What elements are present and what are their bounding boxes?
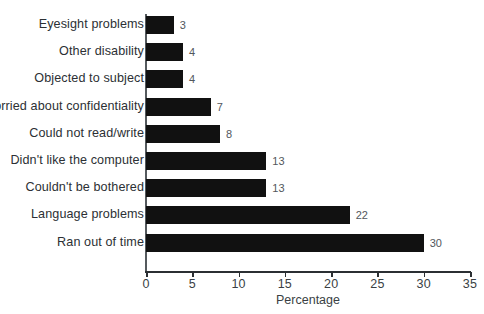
x-axis-tick-label: 15 [265,277,305,291]
x-axis-tick-label: 0 [126,277,166,291]
bar-row: Other disability4 [0,43,484,61]
bar-row: Ran out of time30 [0,234,484,252]
category-label: Eyesight problems [0,15,144,34]
bar-value-label: 13 [272,180,284,197]
bar [146,152,266,170]
bar-value-label: 3 [180,17,186,34]
bar-row: Didn't like the computer13 [0,152,484,170]
x-axis-tick-label: 30 [404,277,444,291]
bar-row: Couldn't be bothered13 [0,179,484,197]
bar-value-label: 22 [356,207,368,224]
category-label: Other disability [0,42,144,61]
bar [146,179,266,197]
x-axis-tick-label: 5 [172,277,212,291]
bar [146,16,174,34]
bar-row: Could not read/write8 [0,125,484,143]
bar [146,234,424,252]
bar [146,98,211,116]
bar-value-label: 30 [430,235,442,252]
bar-value-label: 13 [272,153,284,170]
x-axis-line [145,271,471,273]
category-label: Language problems [0,205,144,224]
bar [146,206,350,224]
x-axis-tick-label: 25 [357,277,397,291]
x-axis-tick-label: 10 [219,277,259,291]
bar-chart: Eyesight problems3Other disability4Objec… [0,0,484,314]
bar [146,125,220,143]
x-axis-tick-label: 20 [311,277,351,291]
bar-row: Objected to subject4 [0,70,484,88]
bar-value-label: 4 [189,44,195,61]
bar-row: Worried about confidentiality7 [0,98,484,116]
bar-row: Language problems22 [0,206,484,224]
x-axis-tick-label: 35 [450,277,484,291]
bar [146,43,183,61]
bar-value-label: 7 [217,99,223,116]
x-axis-title: Percentage [146,293,470,307]
category-label: Couldn't be bothered [0,178,144,197]
bar-row: Eyesight problems3 [0,16,484,34]
category-label: Objected to subject [0,69,144,88]
category-label: Could not read/write [0,124,144,143]
category-label: Didn't like the computer [0,151,144,170]
bar-value-label: 4 [189,71,195,88]
bar-value-label: 8 [226,126,232,143]
category-label: Ran out of time [0,233,144,252]
category-label: Worried about confidentiality [0,97,144,116]
bar [146,70,183,88]
